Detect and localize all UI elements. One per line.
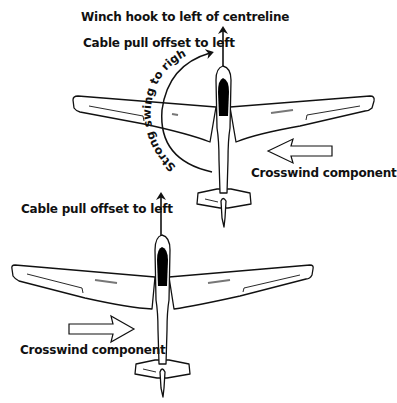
bottom-left-wing [12, 265, 155, 309]
winch-hook-label: Winch hook to left of centreline [81, 10, 289, 24]
top-cable-pull-label: Cable pull offset to left [83, 36, 235, 50]
bottom-crosswind-arrow [69, 316, 134, 342]
bottom-fin [160, 369, 165, 397]
bottom-cable-pull-label: Cable pull offset to left [21, 202, 173, 216]
bottom-crosswind-label: Crosswind component [20, 343, 166, 357]
bottom-right-wing [169, 265, 313, 309]
top-fin [221, 199, 226, 228]
top-right-wing [230, 96, 374, 142]
bottom-canopy [157, 247, 168, 286]
swing-label: Strong swing to right [0, 0, 188, 175]
top-crosswind-label: Crosswind component [251, 166, 397, 180]
top-crosswind-arrow [268, 139, 332, 163]
top-canopy [218, 78, 229, 116]
bottom-glider [12, 235, 313, 397]
